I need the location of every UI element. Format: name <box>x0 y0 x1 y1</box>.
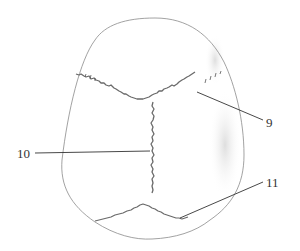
skull-diagram <box>0 0 300 251</box>
label-10: 10 <box>17 147 30 160</box>
label-9: 9 <box>266 116 273 129</box>
parietal-shading <box>209 90 241 200</box>
sagittal-suture <box>151 102 154 193</box>
frontal-shading <box>205 35 225 85</box>
leader-line-10 <box>35 151 150 153</box>
label-11: 11 <box>266 176 279 189</box>
lambdoid-suture <box>95 204 188 221</box>
coronal-suture <box>76 72 195 99</box>
coronal-suture-hatching <box>85 71 221 83</box>
